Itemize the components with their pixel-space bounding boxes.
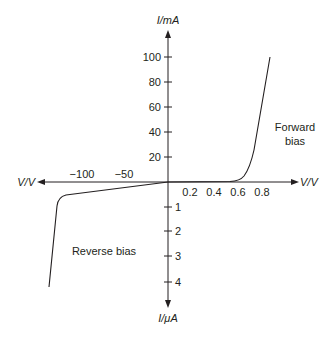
forward-bias-label-line1: Forward (275, 121, 315, 133)
diode-iv-chart: 20 40 60 80 100 1 2 3 4 0.2 0.4 0.6 0.8 … (0, 0, 330, 338)
x-tick-label: 0.6 (230, 186, 245, 198)
x-tick-label-neg: −100 (70, 168, 95, 180)
y-tick-label: 60 (149, 101, 161, 113)
reverse-bias-label: Reverse bias (72, 245, 137, 257)
y-tick-label-neg: 3 (175, 250, 181, 262)
x-axis-left-arrow-icon (37, 179, 45, 185)
x-axis-title-right: V/V (300, 176, 319, 188)
y-axis-down-arrow-icon (165, 300, 171, 308)
y-axis-title-top: I/mA (157, 14, 180, 26)
x-axis-right-arrow-icon (291, 179, 299, 185)
x-axis-title-left: V/V (17, 176, 36, 188)
y-axis-title-bottom: I/μA (158, 312, 177, 324)
x-tick-label-neg: −50 (115, 168, 134, 180)
y-tick-label: 20 (149, 151, 161, 163)
y-tick-label: 100 (143, 51, 161, 63)
x-tick-label: 0.8 (254, 186, 269, 198)
x-tick-label: 0.2 (182, 186, 197, 198)
y-tick-label: 80 (149, 76, 161, 88)
forward-bias-curve (168, 57, 270, 182)
y-tick-label-neg: 1 (175, 201, 181, 213)
y-tick-label-neg: 4 (175, 276, 181, 288)
y-tick-label-neg: 2 (175, 225, 181, 237)
reverse-bias-curve (49, 182, 168, 287)
forward-bias-label-line2: bias (285, 135, 306, 147)
x-tick-label: 0.4 (206, 186, 221, 198)
y-tick-label: 40 (149, 126, 161, 138)
y-axis-up-arrow-icon (165, 30, 171, 38)
